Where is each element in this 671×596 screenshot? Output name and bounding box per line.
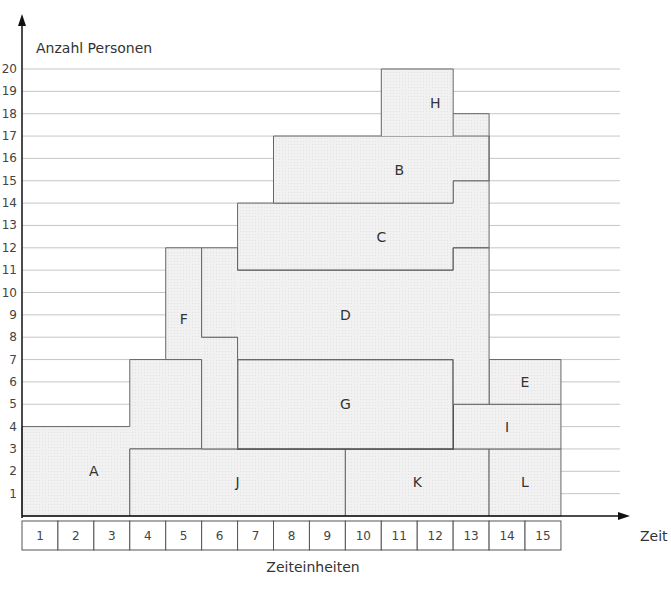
block-label: I: [505, 419, 509, 435]
block-l: L: [489, 449, 561, 516]
block-h: H: [381, 69, 453, 136]
block-label: G: [340, 396, 351, 412]
y-tick-label: 1: [9, 487, 17, 501]
time-unit-label: 2: [72, 529, 80, 543]
block-segment: [453, 248, 489, 404]
block-segment: [130, 360, 202, 449]
time-unit-label: 10: [356, 529, 371, 543]
block-label: J: [235, 474, 240, 490]
block-segment: [274, 136, 454, 203]
block-e: E: [489, 360, 561, 405]
time-unit-label: 5: [180, 529, 188, 543]
y-tick-label: 12: [2, 241, 17, 255]
block-i: I: [453, 404, 561, 449]
block-label: F: [180, 311, 188, 327]
resource-chart: AJKLIEGFDCBH 123456789101112131415161718…: [0, 0, 671, 596]
x-axis-arrow-icon: [618, 512, 630, 520]
y-axis-title: Anzahl Personen: [36, 40, 152, 56]
y-tick-label: 16: [2, 151, 17, 165]
block-k: K: [345, 449, 489, 516]
y-tick-label: 14: [2, 196, 17, 210]
block-segment: [453, 114, 489, 181]
time-unit-label: 1: [36, 529, 44, 543]
y-tick-label: 8: [9, 330, 17, 344]
block-segment: [166, 248, 202, 360]
y-tick-label: 18: [2, 107, 17, 121]
block-label: H: [430, 95, 441, 111]
y-tick-label: 3: [9, 442, 17, 456]
time-unit-label: 9: [324, 529, 332, 543]
x-axis-title: Zeiteinheiten: [266, 559, 359, 575]
time-unit-label: 11: [392, 529, 407, 543]
y-axis-arrow-icon: [18, 14, 26, 26]
time-unit-label: 4: [144, 529, 152, 543]
block-label: A: [89, 463, 99, 479]
y-tick-label: 7: [9, 353, 17, 367]
block-segment: [202, 337, 238, 449]
y-tick-label: 13: [2, 218, 17, 232]
time-unit-label: 8: [288, 529, 296, 543]
block-j: J: [130, 449, 346, 516]
block-segment: [238, 203, 454, 270]
time-unit-label: 3: [108, 529, 116, 543]
y-tick-label: 2: [9, 464, 17, 478]
block-label: K: [413, 474, 423, 490]
block-segment: [381, 69, 453, 136]
time-unit-label: 6: [216, 529, 224, 543]
y-tick-labels: 1234567891011121314151617181920: [2, 62, 17, 501]
block-segment: [202, 248, 238, 337]
block-g: G: [238, 360, 454, 449]
time-unit-boxes: 123456789101112131415: [22, 521, 561, 550]
time-unit-label: 14: [499, 529, 514, 543]
time-unit-label: 13: [463, 529, 478, 543]
block-label: E: [521, 374, 530, 390]
y-tick-label: 6: [9, 375, 17, 389]
y-tick-label: 19: [2, 84, 17, 98]
x-axis-arrow-label: Zeit: [640, 528, 668, 544]
block-label: D: [340, 307, 351, 323]
y-tick-label: 4: [9, 420, 17, 434]
y-tick-label: 10: [2, 286, 17, 300]
y-tick-label: 20: [2, 62, 17, 76]
y-tick-label: 9: [9, 308, 17, 322]
time-unit-label: 15: [535, 529, 550, 543]
block-label: L: [521, 474, 529, 490]
y-tick-label: 15: [2, 174, 17, 188]
block-segment: [22, 427, 130, 516]
block-label: B: [394, 162, 404, 178]
block-label: C: [376, 229, 386, 245]
time-unit-label: 12: [428, 529, 443, 543]
block-segment: [453, 181, 489, 248]
y-tick-label: 5: [9, 397, 17, 411]
y-tick-label: 11: [2, 263, 17, 277]
y-tick-label: 17: [2, 129, 17, 143]
time-unit-label: 7: [252, 529, 260, 543]
